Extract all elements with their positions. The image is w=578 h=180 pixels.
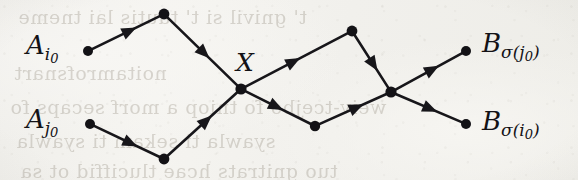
label-source-upper: Ai0 xyxy=(26,32,59,58)
label-subscript: j0 xyxy=(45,118,59,138)
label-subscript: i0 xyxy=(45,44,59,64)
label-subscript: σ(j0) xyxy=(501,42,539,62)
page-vignette xyxy=(0,0,578,180)
subscript-index-letter: i xyxy=(519,120,524,140)
label-crossing-vertex: X xyxy=(236,50,254,75)
subscript-sigma: σ xyxy=(501,120,513,140)
label-base: A xyxy=(26,30,45,60)
label-base: B xyxy=(482,28,501,58)
label-target-lower: Bσ(i0) xyxy=(482,108,540,134)
subscript-paren-close: ) xyxy=(533,120,540,140)
subscript-index-digit: 0 xyxy=(525,127,533,142)
label-base: X xyxy=(236,48,254,77)
figure-root: t' gnivil si t' tautis lai tnemenoitamro… xyxy=(0,0,578,180)
subscript-index-letter: j xyxy=(519,42,524,62)
subscript-index-digit: 0 xyxy=(525,49,533,64)
label-source-lower: Aj0 xyxy=(26,106,58,132)
label-base: B xyxy=(482,106,501,136)
subscript-sigma: σ xyxy=(501,42,513,62)
label-base: A xyxy=(26,104,45,134)
subscript-digit: 0 xyxy=(50,125,58,140)
label-target-upper: Bσ(j0) xyxy=(482,30,540,56)
subscript-digit: 0 xyxy=(50,51,58,66)
label-subscript: σ(i0) xyxy=(501,120,540,140)
subscript-paren-close: ) xyxy=(533,42,540,62)
